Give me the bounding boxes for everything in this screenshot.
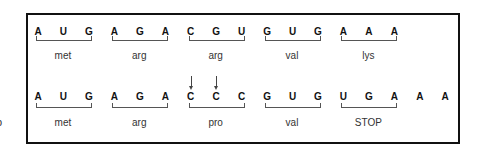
nucleotide-base: A xyxy=(439,92,451,102)
mutation-arrow-icon xyxy=(216,76,217,87)
codon-bracket xyxy=(265,36,321,41)
codon-bracket xyxy=(265,103,321,108)
amino-acid-label: arg xyxy=(189,51,243,61)
amino-acid-label: val xyxy=(265,118,319,128)
codon-bracket xyxy=(112,36,168,41)
nucleotide-base: C xyxy=(185,92,197,102)
codon-bracket xyxy=(36,103,92,108)
nucleotide-base: A xyxy=(32,92,44,102)
nucleotide-base: C xyxy=(210,92,222,102)
nucleotide-base: U xyxy=(57,92,69,102)
amino-acid-label: met xyxy=(36,51,90,61)
nucleotide-base: G xyxy=(261,92,273,102)
amino-acid-label: STOP xyxy=(341,118,395,128)
amino-acid-label: pro xyxy=(189,118,243,128)
nucleotide-base: A xyxy=(414,92,426,102)
nucleotide-base: U xyxy=(337,92,349,102)
codon-bracket xyxy=(341,36,397,41)
codon-bracket xyxy=(112,103,168,108)
amino-acid-label: arg xyxy=(112,118,166,128)
nucleotide-base: G xyxy=(134,92,146,102)
amino-acid-label: val xyxy=(265,51,319,61)
nucleotide-base: G xyxy=(363,92,375,102)
codon-bracket xyxy=(36,36,92,41)
nucleotide-base: C xyxy=(236,92,248,102)
amino-acid-label: arg xyxy=(112,51,166,61)
nucleotide-base: A xyxy=(388,92,400,102)
amino-acid-label: met xyxy=(36,118,90,128)
codon-bracket xyxy=(341,103,397,108)
nucleotide-base: G xyxy=(312,92,324,102)
amino-acid-label: lys xyxy=(341,51,395,61)
nucleotide-base: A xyxy=(108,92,120,102)
codon-bracket xyxy=(189,103,245,108)
mutation-arrow-icon xyxy=(191,76,192,87)
codon-bracket xyxy=(189,36,245,41)
nucleotide-base: A xyxy=(159,92,171,102)
panel-label: b xyxy=(0,116,2,128)
nucleotide-base: U xyxy=(287,92,299,102)
nucleotide-base: G xyxy=(83,92,95,102)
